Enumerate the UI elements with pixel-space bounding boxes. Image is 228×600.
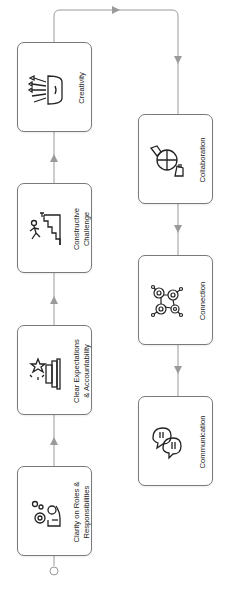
node-label: Creativity <box>66 43 141 133</box>
arrow-right-icon <box>112 6 120 14</box>
arrow-down-icon <box>174 56 182 64</box>
flow-diagram: Clarity on Roles &Responsibilities Clear… <box>0 0 228 600</box>
arrow-down-icon <box>174 225 182 233</box>
arrow-down-icon <box>174 366 182 374</box>
node-label: ConstructiveChallenge <box>66 184 141 274</box>
speech-bubbles-icon <box>147 422 187 462</box>
gear-hand-icon <box>26 492 66 532</box>
node-collaboration[interactable]: Collaboration <box>138 114 213 204</box>
node-label: Clarity on Roles &Responsibilities <box>66 467 141 557</box>
node-label: Clear Expectations& Accountability <box>66 326 141 416</box>
arrow-up-icon <box>50 296 58 304</box>
node-label: Connection <box>187 256 228 346</box>
climber-stairs-icon <box>26 209 66 249</box>
start-node-icon <box>50 567 58 575</box>
star-podium-icon <box>26 351 66 391</box>
arrow-up-icon <box>50 154 58 162</box>
node-connection[interactable]: Connection <box>138 255 213 345</box>
network-nodes-icon <box>147 281 187 321</box>
puzzle-hands-icon <box>147 140 187 180</box>
node-creativity[interactable]: Creativity <box>17 42 92 132</box>
node-clarity[interactable]: Clarity on Roles &Responsibilities <box>17 466 92 556</box>
node-expectations[interactable]: Clear Expectations& Accountability <box>17 325 92 415</box>
node-communication[interactable]: Communication <box>138 396 213 486</box>
node-label: Communication <box>187 397 228 487</box>
arrow-up-icon <box>50 437 58 445</box>
node-label: Collaboration <box>187 115 228 205</box>
node-challenge[interactable]: ConstructiveChallenge <box>17 183 92 273</box>
crayons-cup-icon <box>26 68 66 108</box>
